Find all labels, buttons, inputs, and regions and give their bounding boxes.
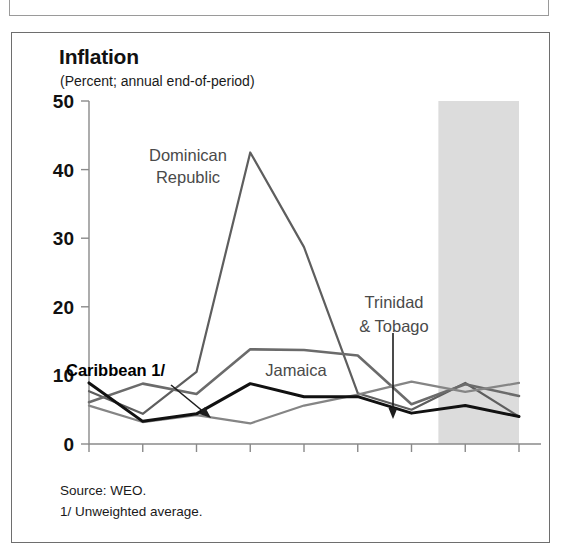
x-tick-label: 2005 xyxy=(341,461,374,463)
x-tick-label: 2004 xyxy=(287,461,321,463)
inflation-line-chart: 0102030405020002001200220032004200520062… xyxy=(12,33,551,463)
x-tick-label: 2006 xyxy=(395,461,428,463)
source-note: Source: WEO. xyxy=(60,481,203,502)
x-tick-label: 2001 xyxy=(126,461,159,463)
y-tick-label: 30 xyxy=(53,228,74,249)
x-tick-label: 2000 xyxy=(72,461,105,463)
annotations: DominicanRepublicJamaicaTrinidad& Tobago… xyxy=(66,146,429,419)
chart-footnotes: Source: WEO. 1/ Unweighted average. xyxy=(60,481,203,523)
y-tick-label: 20 xyxy=(53,297,74,318)
x-tick-label: 2008 xyxy=(502,461,535,463)
annotation-label-caribbean: Caribbean 1/ xyxy=(66,361,165,379)
page-top-frame xyxy=(9,0,549,16)
y-tick-label: 50 xyxy=(53,91,74,112)
annotation-label-dominican-republic: DominicanRepublic xyxy=(149,146,227,186)
plot-area: 0102030405020002001200220032004200520062… xyxy=(12,33,551,544)
annotation-label-trinidad-tobago: Trinidad& Tobago xyxy=(359,293,428,335)
x-tick-label: 2002 xyxy=(180,461,213,463)
footnote-unweighted-average: 1/ Unweighted average. xyxy=(60,502,203,523)
y-tick-label: 40 xyxy=(53,160,74,181)
annotation-label-jamaica: Jamaica xyxy=(265,361,327,379)
leader-caribbean xyxy=(171,385,205,413)
y-tick-label: 0 xyxy=(63,434,74,455)
leader-arrowhead-trinidad-tobago xyxy=(389,408,398,419)
figure-container: Inflation (Percent; annual end-of-period… xyxy=(11,32,550,543)
x-tick-label: 2003 xyxy=(234,461,267,463)
x-tick-label: 2007 xyxy=(449,461,482,463)
